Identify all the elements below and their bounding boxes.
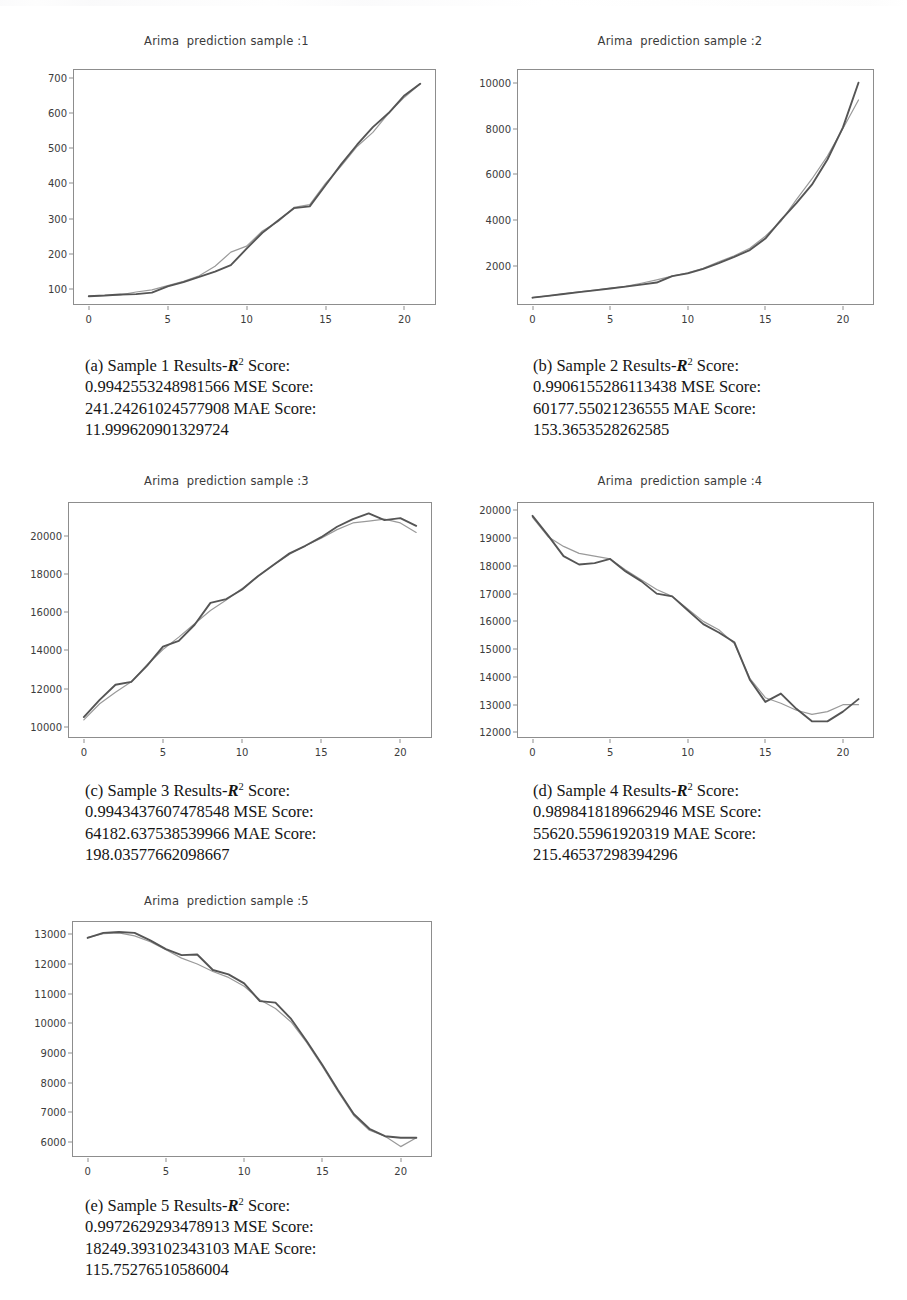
y-axis-tick-mark — [513, 510, 517, 511]
y-axis-tick-label: 12000 — [22, 683, 62, 694]
x-axis-tick-mark — [765, 306, 766, 310]
y-axis-tick-label: 14000 — [22, 645, 62, 656]
x-axis-tick-mark — [246, 306, 247, 310]
y-axis-tick-mark — [513, 174, 517, 175]
caption-a-label: (a) — [85, 356, 103, 375]
caption-c: (c) Sample 3 Results-R2 Score: 0.9943437… — [85, 775, 415, 866]
y-axis-tick-mark — [513, 538, 517, 539]
y-axis-tick-label: 16000 — [471, 616, 511, 627]
figure-e: Arima prediction sample :5 6000700080009… — [0, 890, 453, 1180]
y-axis-tick-mark — [513, 565, 517, 566]
caption-e: (e) Sample 5 Results-R2 Score: 0.9972629… — [85, 1190, 415, 1281]
x-axis-tick-label: 10 — [681, 314, 694, 325]
y-axis-tick-label: 16000 — [22, 607, 62, 618]
caption-a-prefix: Sample 1 Results- — [107, 356, 227, 375]
y-axis-tick-mark — [69, 77, 73, 78]
y-axis-tick-label: 20000 — [471, 505, 511, 516]
x-axis-tick-mark — [532, 739, 533, 743]
plot-area-a: Arima prediction sample :1 1002003004005… — [0, 28, 453, 346]
y-axis-tick-label: 2000 — [471, 261, 511, 272]
y-axis-tick-mark — [68, 964, 72, 965]
y-axis-tick-mark — [69, 113, 73, 114]
x-axis-tick-mark — [88, 306, 89, 310]
series-line-predicted — [533, 100, 859, 298]
y-axis-tick-label: 9000 — [26, 1048, 66, 1059]
x-axis-tick-mark — [165, 1158, 166, 1162]
y-axis-tick-label: 18000 — [22, 569, 62, 580]
x-axis-tick-mark — [404, 306, 405, 310]
y-axis-tick-label: 4000 — [471, 215, 511, 226]
y-axis-tick-label: 14000 — [471, 671, 511, 682]
series-line-actual — [89, 84, 420, 296]
caption-a: (a) Sample 1 Results-R2 Score: 0.9942553… — [85, 350, 415, 441]
figure-a: Arima prediction sample :1 1002003004005… — [0, 28, 453, 346]
plot-area-b: Arima prediction sample :2 2000400060008… — [453, 28, 907, 346]
x-axis-tick-mark — [842, 306, 843, 310]
caption-d-prefix: Sample 4 Results- — [556, 781, 676, 800]
x-axis-tick-label: 0 — [84, 1166, 90, 1177]
y-axis-tick-mark — [64, 726, 68, 727]
x-axis-tick-mark — [400, 739, 401, 743]
x-axis-tick-label: 5 — [160, 747, 166, 758]
y-axis-tick-mark — [69, 183, 73, 184]
caption-e-label: (e) — [85, 1196, 103, 1215]
x-axis-tick-mark — [687, 306, 688, 310]
y-axis-tick-mark — [68, 1112, 72, 1113]
y-axis-tick-mark — [68, 934, 72, 935]
y-axis-tick-label: 300 — [27, 213, 67, 224]
y-axis-tick-mark — [68, 1082, 72, 1083]
y-axis-tick-label: 15000 — [471, 644, 511, 655]
chart-svg-a — [0, 28, 453, 346]
y-axis-tick-mark — [513, 676, 517, 677]
x-axis-tick-label: 0 — [529, 747, 535, 758]
x-axis-tick-mark — [162, 739, 163, 743]
y-axis-tick-label: 600 — [27, 108, 67, 119]
x-axis-tick-label: 15 — [315, 747, 328, 758]
y-axis-tick-mark — [69, 253, 73, 254]
x-axis-tick-label: 10 — [681, 747, 694, 758]
y-axis-tick-label: 18000 — [471, 560, 511, 571]
chart-svg-d — [453, 470, 907, 760]
x-axis-tick-label: 20 — [398, 314, 411, 325]
x-axis-tick-mark — [167, 306, 168, 310]
x-axis-tick-label: 15 — [759, 747, 772, 758]
x-axis-tick-label: 15 — [316, 1166, 329, 1177]
caption-b: (b) Sample 2 Results-R2 Score: 0.9906155… — [533, 350, 863, 441]
y-axis-tick-label: 12000 — [471, 727, 511, 738]
x-axis-tick-label: 5 — [165, 314, 171, 325]
chart-svg-b — [453, 28, 907, 346]
y-axis-tick-mark — [513, 220, 517, 221]
x-axis-tick-label: 0 — [86, 314, 92, 325]
y-axis-tick-mark — [64, 574, 68, 575]
series-line-actual — [88, 932, 417, 1138]
y-axis-tick-mark — [513, 266, 517, 267]
y-axis-tick-mark — [68, 1023, 72, 1024]
x-axis-tick-mark — [242, 739, 243, 743]
caption-b-label: (b) — [533, 356, 552, 375]
y-axis-tick-label: 400 — [27, 178, 67, 189]
chart-svg-c — [0, 470, 453, 760]
x-axis-tick-mark — [400, 1158, 401, 1162]
caption-c-label: (c) — [85, 781, 103, 800]
x-axis-tick-mark — [321, 739, 322, 743]
y-axis-tick-mark — [513, 593, 517, 594]
x-axis-tick-label: 20 — [394, 747, 407, 758]
series-line-predicted — [84, 519, 416, 720]
plot-area-e: Arima prediction sample :5 6000700080009… — [0, 890, 453, 1180]
y-axis-tick-label: 10000 — [22, 721, 62, 732]
caption-b-r2: R2 — [676, 356, 692, 375]
y-axis-tick-label: 20000 — [22, 531, 62, 542]
x-axis-tick-label: 5 — [607, 314, 613, 325]
caption-e-r2: R2 — [228, 1196, 244, 1215]
y-axis-tick-label: 11000 — [26, 988, 66, 999]
x-axis-tick-label: 5 — [163, 1166, 169, 1177]
y-axis-tick-label: 8000 — [26, 1077, 66, 1088]
y-axis-tick-label: 200 — [27, 248, 67, 259]
x-axis-tick-label: 10 — [238, 1166, 251, 1177]
y-axis-tick-label: 100 — [27, 284, 67, 295]
x-axis-tick-label: 15 — [319, 314, 332, 325]
y-axis-tick-label: 500 — [27, 143, 67, 154]
y-axis-tick-label: 13000 — [26, 929, 66, 940]
series-line-actual — [533, 516, 859, 721]
x-axis-tick-label: 20 — [837, 747, 850, 758]
